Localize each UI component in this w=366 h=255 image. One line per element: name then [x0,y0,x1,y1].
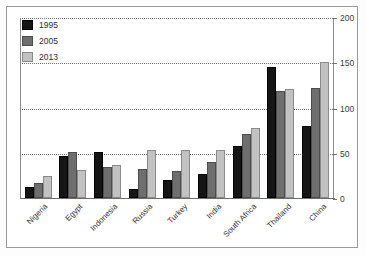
x-tick-label-text: Russia [130,202,154,226]
legend-label: 2013 [39,53,58,62]
y-tick-label: 100 [340,104,354,113]
bar[interactable] [34,183,43,198]
bar[interactable] [207,162,216,198]
bar[interactable] [251,128,260,198]
y-tick-label: 50 [340,150,349,159]
bar-group [163,18,190,198]
bar[interactable] [103,167,112,198]
bar-group [233,18,260,198]
bar[interactable] [311,88,320,198]
y-tick-50 [333,154,337,155]
bar[interactable] [242,134,251,198]
y-tick-150 [333,63,337,64]
x-tick-label-text: Egypt [64,202,85,223]
legend-swatch-icon [22,52,33,62]
legend-item[interactable]: 2005 [22,34,58,48]
bar-group [94,18,121,198]
x-tick-label-text: Thailand [265,202,293,230]
bar[interactable] [181,150,190,198]
x-axis-labels: NigeriaEgyptIndonesiaRussiaTurkeyIndiaSo… [20,200,333,250]
bar[interactable] [112,165,121,198]
bar-group [59,18,86,198]
bar-group [198,18,225,198]
bar[interactable] [147,150,156,198]
x-tick-label-text: Nigeria [25,202,49,226]
x-tick-label-text: China [307,202,328,223]
chart-figure: 050100150200 NigeriaEgyptIndonesiaRussia… [0,0,366,255]
bar[interactable] [68,152,77,198]
bar-group [302,18,329,198]
bar[interactable] [233,146,242,198]
legend-label: 1995 [39,21,58,30]
y-tick-100 [333,109,337,110]
y-tick-label: 200 [340,14,354,23]
legend-label: 2005 [39,37,58,46]
legend-swatch-icon [22,20,33,30]
bar[interactable] [320,62,329,198]
y-tick-label: 150 [340,59,354,68]
bar[interactable] [216,150,225,198]
bar-group [267,18,294,198]
x-tick-label-text: South Africa [222,202,259,239]
bar[interactable] [25,187,34,198]
legend-item[interactable]: 1995 [22,18,58,32]
legend-swatch-icon [22,36,33,46]
plot-area [20,18,333,199]
bar[interactable] [172,171,181,198]
x-tick-label-text: Turkey [165,202,188,225]
bar-groups [21,18,333,198]
chart-legend: 199520052013 [22,18,58,66]
legend-item[interactable]: 2013 [22,50,58,64]
plot-bottom-spine [20,198,335,199]
x-tick-label-text: India [205,202,224,221]
bar[interactable] [285,89,294,199]
y-tick-200 [333,18,337,19]
bar-group [129,18,156,198]
x-tick-label-text: Indonesia [88,202,119,233]
